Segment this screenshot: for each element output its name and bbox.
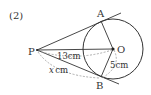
label-A: A <box>96 8 105 19</box>
label-B: B <box>96 80 103 91</box>
label-O: O <box>117 44 125 55</box>
label-PO-length: 13cm <box>57 51 81 61</box>
tangent-diagram: (2) P O A B 13cm xcm 5cm <box>0 0 151 95</box>
label-PB-length: xcm <box>49 65 68 75</box>
tangent-line-PA <box>37 13 121 50</box>
label-PB-var: x <box>49 65 54 75</box>
point-P-dot <box>36 49 38 51</box>
problem-number: (2) <box>9 10 23 21</box>
label-P: P <box>28 46 35 57</box>
radius-OA <box>101 21 113 49</box>
label-PB-unit: cm <box>55 65 68 75</box>
segment-PO <box>37 49 113 50</box>
label-OB-length: 5cm <box>110 60 128 70</box>
